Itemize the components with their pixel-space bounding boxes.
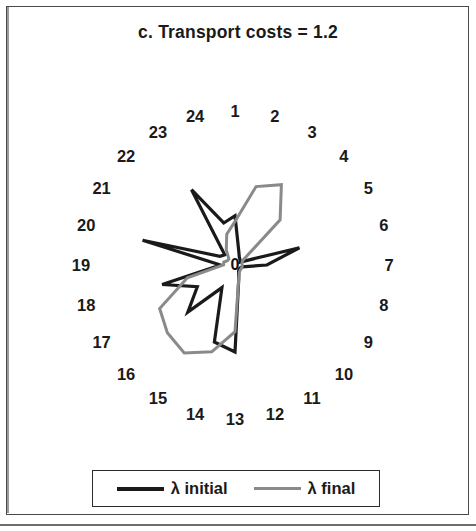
spoke-label-22: 22 — [117, 148, 135, 165]
spoke-label-17: 17 — [92, 334, 110, 351]
spoke-label-7: 7 — [384, 257, 393, 274]
spoke-label-16: 16 — [117, 366, 135, 383]
spoke-label-19: 19 — [72, 257, 90, 274]
spoke-label-14: 14 — [186, 406, 204, 423]
legend-label-initial: λ initial — [171, 480, 228, 497]
spoke-label-24: 24 — [186, 108, 204, 125]
spoke-label-2: 2 — [270, 108, 279, 125]
legend-swatch-initial — [117, 487, 164, 491]
page-rule — [0, 524, 476, 526]
spoke-label-3: 3 — [307, 123, 316, 140]
spoke-label-6: 6 — [379, 217, 388, 234]
spoke-label-4: 4 — [339, 148, 348, 165]
spoke-label-21: 21 — [92, 180, 110, 197]
spoke-label-20: 20 — [77, 217, 95, 234]
chart-legend: λ initial λ final — [92, 470, 380, 507]
spoke-label-23: 23 — [149, 123, 167, 140]
spoke-label-1: 1 — [230, 103, 239, 120]
spoke-label-9: 9 — [364, 334, 373, 351]
spoke-label-15: 15 — [149, 390, 167, 407]
legend-entry-final: λ final — [254, 480, 356, 497]
spoke-label-11: 11 — [303, 390, 320, 407]
legend-entry-initial: λ initial — [117, 480, 228, 497]
legend-swatch-final — [254, 487, 301, 491]
spoke-label-12: 12 — [266, 406, 284, 423]
spoke-label-18: 18 — [77, 297, 95, 314]
figure-panel: c. Transport costs = 1.2 123456789101112… — [0, 0, 476, 531]
radar-series-final — [160, 185, 282, 353]
spoke-label-10: 10 — [335, 366, 353, 383]
legend-label-final: λ final — [308, 480, 356, 497]
origin-label: 0 — [231, 257, 240, 273]
spoke-label-8: 8 — [379, 297, 388, 314]
spoke-label-5: 5 — [364, 180, 373, 197]
spoke-label-13: 13 — [226, 411, 244, 428]
